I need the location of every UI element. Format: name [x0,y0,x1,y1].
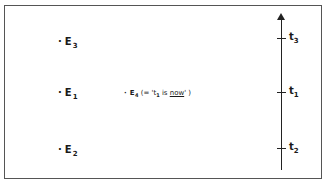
event-dot: · [58,36,62,47]
event-e4: ·E4 (= 't1 is now' ) [124,89,191,98]
tick-t1 [277,92,286,93]
tick-label-t2: t2 [289,141,299,155]
event-e2: ·E2 [58,144,78,158]
event-dot: · [58,87,62,98]
tick-t3 [277,38,286,39]
event-e1: ·E1 [58,87,78,101]
tick-label-t1: t1 [289,85,299,99]
tick-label-t3: t3 [289,31,299,45]
time-axis [281,16,282,170]
tick-t2 [277,148,286,149]
event-dot: · [58,144,62,155]
event-e3: ·E3 [58,36,78,50]
event-dot: · [124,89,127,97]
event-e4-note: (= 't1 is now' ) [141,89,191,97]
